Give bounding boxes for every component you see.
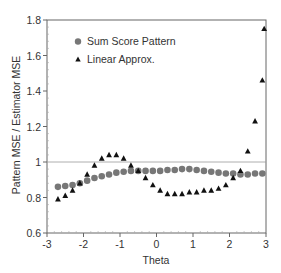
circle-marker xyxy=(113,169,120,176)
legend-circle-icon xyxy=(75,38,81,44)
plot-border xyxy=(47,20,266,233)
circle-marker xyxy=(171,167,178,174)
triangle-marker xyxy=(208,187,214,192)
triangle-marker xyxy=(259,77,265,82)
circle-marker xyxy=(120,168,127,175)
y-tick-label: 1.4 xyxy=(26,85,41,97)
triangle-marker xyxy=(179,191,185,196)
circle-marker xyxy=(179,166,186,173)
circle-marker xyxy=(164,167,171,174)
circle-marker xyxy=(201,168,208,175)
triangle-marker xyxy=(194,189,200,194)
plot-frame xyxy=(47,20,266,233)
circle-marker xyxy=(223,170,230,177)
legend: Sum Score PatternLinear Approx. xyxy=(75,35,176,65)
triangle-marker xyxy=(165,191,171,196)
triangle-marker xyxy=(252,118,258,123)
y-tick-label: 0.8 xyxy=(26,192,41,204)
circle-marker xyxy=(62,183,69,190)
circle-marker xyxy=(91,175,98,182)
legend-triangle-icon xyxy=(75,57,80,62)
y-axis-title: Pattern MSE / Estimator MSE xyxy=(10,56,22,194)
circle-marker xyxy=(208,168,215,175)
x-tick-label: 2 xyxy=(227,238,233,250)
y-axis: 0.60.811.21.41.61.8 xyxy=(26,14,49,239)
triangle-marker xyxy=(201,187,207,192)
triangle-marker xyxy=(55,196,61,201)
circle-marker xyxy=(55,184,62,191)
triangle-marker xyxy=(238,168,244,173)
triangle-marker xyxy=(186,189,192,194)
y-tick-label: 1 xyxy=(35,156,41,168)
legend-label: Linear Approx. xyxy=(87,53,155,65)
y-tick-label: 1.2 xyxy=(26,121,41,133)
circle-marker xyxy=(259,170,266,177)
chart: 0.60.811.21.41.61.8 -3-2-10123 Sum Score… xyxy=(0,0,281,273)
circle-marker xyxy=(193,167,200,174)
triangle-marker xyxy=(128,162,134,167)
triangle-marker xyxy=(84,171,90,176)
circle-marker xyxy=(98,173,105,180)
triangle-marker xyxy=(92,162,98,167)
x-axis-title: Theta xyxy=(143,254,170,266)
circle-marker xyxy=(157,168,164,175)
triangle-marker xyxy=(245,148,251,153)
triangle-marker xyxy=(172,191,178,196)
circle-marker xyxy=(215,169,222,176)
triangle-marker xyxy=(143,175,149,180)
triangle-marker xyxy=(62,193,68,198)
x-tick-label: -2 xyxy=(79,238,88,250)
circle-marker xyxy=(142,168,149,175)
triangle-marker xyxy=(106,152,112,157)
triangle-marker xyxy=(99,155,105,160)
circle-marker xyxy=(150,168,157,175)
triangle-marker xyxy=(70,187,76,192)
y-tick-label: 0.6 xyxy=(26,227,41,239)
x-tick-label: 0 xyxy=(154,238,160,250)
y-tick-label: 1.8 xyxy=(26,14,41,26)
x-tick-label: -1 xyxy=(115,238,124,250)
triangle-marker xyxy=(216,185,222,190)
circle-marker xyxy=(106,171,113,178)
triangle-marker xyxy=(150,182,156,187)
circle-marker xyxy=(128,168,135,175)
legend-label: Sum Score Pattern xyxy=(87,35,176,47)
circle-marker xyxy=(186,166,193,173)
triangle-marker xyxy=(157,187,163,192)
x-tick-label: 3 xyxy=(263,238,269,250)
triangle-marker xyxy=(113,152,119,157)
circle-marker xyxy=(244,171,251,178)
x-tick-label: -3 xyxy=(42,238,51,250)
x-tick-label: 1 xyxy=(190,238,196,250)
y-tick-label: 1.6 xyxy=(26,50,41,62)
triangle-marker xyxy=(121,155,127,160)
triangle-marker xyxy=(223,182,229,187)
circle-marker xyxy=(84,177,91,184)
x-axis: -3-2-10123 xyxy=(42,231,269,250)
circle-marker xyxy=(252,170,259,177)
